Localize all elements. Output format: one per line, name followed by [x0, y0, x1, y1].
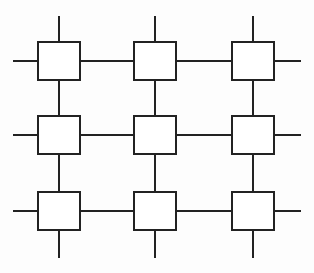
node-rect	[38, 192, 80, 230]
node-rect	[38, 116, 80, 154]
node-box-n00	[38, 42, 80, 80]
node-box-n12	[232, 116, 274, 154]
nodes-layer	[38, 42, 274, 230]
node-box-n02	[232, 42, 274, 80]
node-box-n10	[38, 116, 80, 154]
node-rect	[134, 42, 176, 80]
mesh-grid-svg	[0, 0, 314, 273]
node-rect	[134, 116, 176, 154]
node-rect	[232, 42, 274, 80]
node-rect	[134, 192, 176, 230]
node-rect	[232, 116, 274, 154]
node-box-n01	[134, 42, 176, 80]
node-box-n20	[38, 192, 80, 230]
node-box-n22	[232, 192, 274, 230]
node-box-n11	[134, 116, 176, 154]
mesh-diagram	[0, 0, 314, 273]
node-box-n21	[134, 192, 176, 230]
node-rect	[38, 42, 80, 80]
node-rect	[232, 192, 274, 230]
